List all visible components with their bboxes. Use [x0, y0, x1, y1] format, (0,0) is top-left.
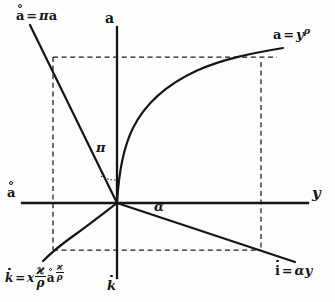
- curves-group: [30, 25, 295, 262]
- label-kdot-exponent: ϰ ρ: [55, 263, 65, 282]
- axis-label-kdot-letter: k: [107, 279, 116, 292]
- axis-label-adot-left: a: [7, 186, 16, 199]
- label-idot-equals-sign: =: [280, 263, 294, 278]
- diagram-canvas: [0, 0, 335, 302]
- label-adot-lhs: a: [16, 9, 25, 22]
- axis-label-y-right: y: [312, 186, 321, 201]
- label-idot-variable: y: [305, 263, 313, 278]
- label-ayrho-base: y: [296, 27, 304, 42]
- label-kdot-coefficient: x: [27, 271, 34, 285]
- label-kdot-expression: k=x ϰ ρ a ϰ ρ: [5, 263, 65, 289]
- label-idot-coefficient: α: [294, 263, 304, 278]
- label-kdot-exponent-fraction: ϰ ρ: [56, 263, 64, 282]
- label-adot-pi-symbol: π: [39, 8, 49, 23]
- label-adot-equals-pi-a: a=πa: [16, 9, 58, 22]
- axis-label-kdot-bottom: k: [107, 279, 116, 292]
- label-kdot-fraction: ϰ ρ: [35, 264, 45, 289]
- label-kdot-equals-sign: =: [14, 271, 27, 285]
- curve-kdot: [43, 203, 117, 261]
- angle-label-alpha: α: [154, 200, 164, 213]
- angle-label-pi: π: [96, 141, 106, 154]
- label-idot-equals-alpha-y: i=αy: [275, 264, 313, 277]
- label-kdot-fraction-numerator: ϰ: [35, 264, 45, 277]
- label-adot-rhs-var: a: [49, 8, 58, 23]
- label-kdot-exponent-denominator: ρ: [56, 273, 64, 282]
- label-kdot-base: a: [47, 272, 55, 284]
- math-diagram-figure: a=πa a a=yρ π a y α k=x ϰ ρ a ϰ ρ i=αy k: [0, 0, 335, 302]
- axis-label-adot-letter: a: [7, 186, 16, 199]
- label-a-equals-y-rho: a=yρ: [273, 26, 311, 41]
- projection-lines-group: [53, 57, 277, 250]
- label-kdot-lhs: k: [5, 272, 14, 284]
- label-idot-lhs: i: [275, 264, 280, 277]
- label-ayrho-exponent: ρ: [304, 26, 311, 36]
- axes-group: [22, 27, 308, 278]
- curve-a-eq-y-rho: [117, 48, 283, 203]
- ray-idot-eq-alpha-y: [117, 203, 295, 262]
- label-ayrho-lhs: a: [273, 27, 282, 42]
- label-adot-equals-sign: =: [25, 8, 39, 23]
- ray-adot-eq-pi-a: [30, 25, 117, 203]
- axis-label-a-top: a: [105, 11, 114, 25]
- label-kdot-fraction-denominator: ρ: [35, 277, 45, 289]
- label-ayrho-equals-sign: =: [282, 27, 296, 42]
